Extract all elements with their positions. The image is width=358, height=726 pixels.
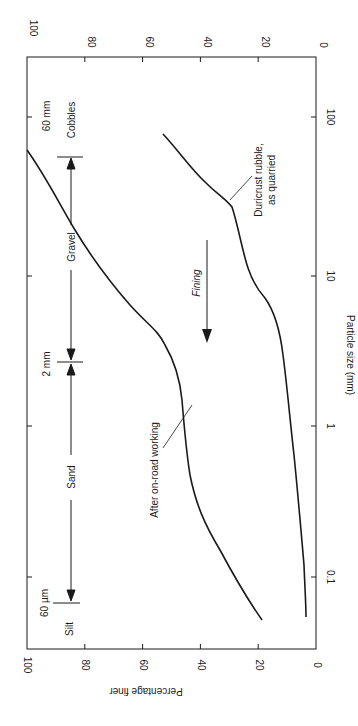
ytick-label-40: 40 (196, 659, 207, 671)
label-gravel: Gravel (66, 232, 77, 261)
xtick-label-10: 10 (325, 270, 336, 282)
x-axis-title: Particle size (mm) (345, 315, 356, 395)
ytick-label-20: 20 (254, 659, 265, 671)
curve-after-on-road-working (27, 150, 262, 620)
label-60mm: 60 mm (41, 101, 52, 132)
particle-size-chart: 100 80 60 40 20 0 100 80 60 40 20 0 Perc… (0, 0, 358, 726)
bottom-percentage-labels: 100 80 60 40 20 0 (22, 657, 323, 674)
ytick-label-0-top: 0 (318, 42, 329, 48)
xtick-label-0-1: 0.1 (325, 570, 336, 584)
ytick-label-60-top: 60 (144, 36, 155, 48)
size-class-bar (53, 157, 83, 603)
top-percentage-ticks (85, 57, 258, 62)
size-tick-labels: 100 10 1 0.1 (325, 109, 336, 585)
fining-arrowhead-icon (202, 329, 212, 343)
curve1-leader-line (163, 405, 192, 448)
curve2-label-line2: as quarried (266, 155, 277, 205)
xtick-label-100: 100 (325, 109, 336, 126)
label-silt: Silt (64, 622, 75, 636)
right-size-ticks (311, 117, 316, 577)
label-sand: Sand (66, 465, 77, 488)
left-size-ticks (27, 117, 32, 577)
label-60um: 60 µm (39, 589, 50, 617)
bottom-percentage-ticks (85, 644, 258, 649)
ytick-label-80: 80 (80, 659, 91, 671)
ytick-label-100-top: 100 (28, 20, 39, 37)
curve1-label: After on-road working (149, 422, 160, 518)
label-2mm: 2 mm (41, 352, 52, 377)
xtick-label-1: 1 (325, 423, 336, 429)
curve2-leader-line (230, 176, 252, 200)
top-percentage-labels: 100 80 60 40 20 0 (28, 20, 329, 49)
ytick-label-60: 60 (138, 659, 149, 671)
ytick-label-40-top: 40 (202, 36, 213, 48)
fining-arrow: Fining (191, 240, 212, 343)
curve2-label: Duricrust rubble, as quarried (253, 143, 277, 216)
ytick-label-100: 100 (22, 657, 33, 674)
ytick-label-80-top: 80 (86, 36, 97, 48)
ytick-label-20-top: 20 (260, 36, 271, 48)
y-axis-title: Percentage finer (109, 686, 183, 697)
label-fining: Fining (191, 269, 202, 297)
ytick-label-0: 0 (312, 662, 323, 668)
label-cobbles: Cobbles (66, 102, 77, 139)
curve2-label-line1: Duricrust rubble, (253, 143, 264, 216)
curve-duricrust-rubble (163, 134, 306, 617)
